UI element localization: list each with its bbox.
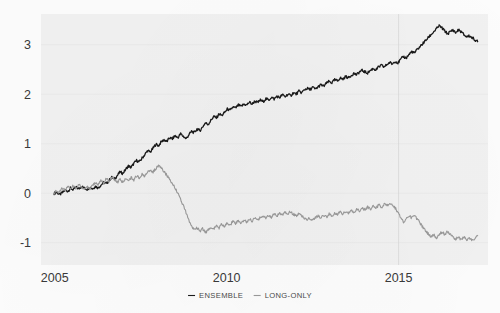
y-tick-label-0: 0 (24, 187, 31, 201)
chart-container: -10123 200520102015 ENSEMBLELONG-ONLY (0, 0, 500, 313)
x-tick-label-2005: 2005 (41, 271, 69, 285)
plot-area-background (41, 14, 488, 265)
legend-label: ENSEMBLE (199, 291, 243, 300)
performance-line-chart: -10123 200520102015 ENSEMBLELONG-ONLY (0, 0, 500, 313)
y-tick-label-3: 3 (24, 38, 31, 52)
y-tick-label-2: 2 (24, 88, 31, 102)
y-tick-label-1: 1 (24, 137, 31, 151)
y-tick-label--1: -1 (20, 236, 31, 250)
x-tick-label-2010: 2010 (213, 271, 241, 285)
x-tick-label-2015: 2015 (385, 271, 413, 285)
legend-label: LONG-ONLY (265, 291, 312, 300)
